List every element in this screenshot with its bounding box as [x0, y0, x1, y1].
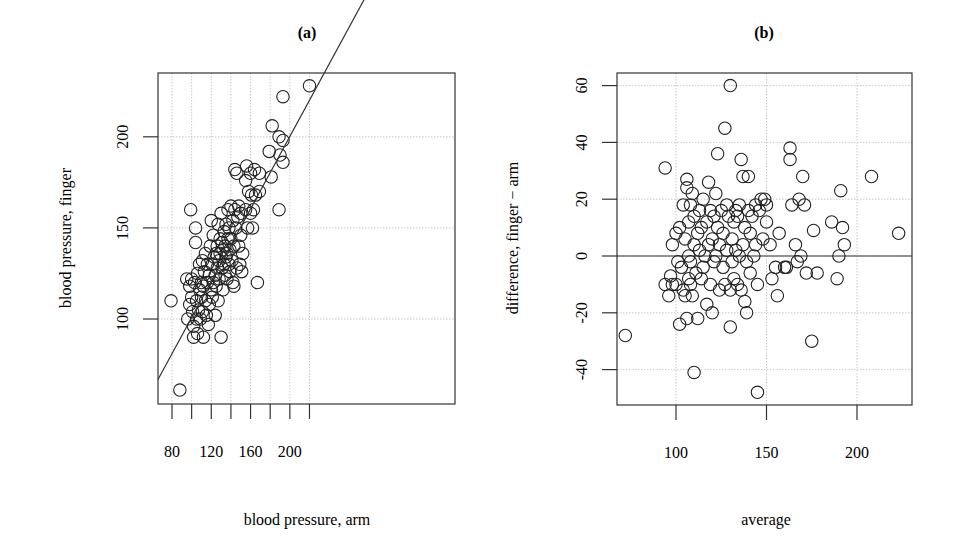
data-point: [701, 298, 713, 310]
panel-a-x-label: blood pressure, arm: [244, 511, 371, 529]
panel-b-y-axis: -40-200204060: [573, 78, 617, 381]
x-tick-label: 200: [278, 443, 302, 460]
data-point: [724, 321, 736, 333]
data-point: [742, 170, 754, 182]
y-tick-label: 0: [573, 252, 590, 260]
data-point: [686, 290, 698, 302]
data-point: [806, 335, 818, 347]
data-point: [784, 142, 796, 154]
y-tick-label: -20: [573, 302, 590, 323]
data-point: [784, 153, 796, 165]
data-point: [807, 224, 819, 236]
y-tick-label: 100: [114, 307, 131, 331]
data-point: [240, 160, 252, 172]
data-point: [209, 309, 221, 321]
panel-b: (b) 100150200 -40-200204060 average diff…: [504, 24, 912, 529]
data-point: [789, 238, 801, 250]
x-tick-label: 100: [664, 444, 688, 461]
panel-b-y-label: difference, finger − arm: [504, 161, 522, 314]
data-point: [836, 221, 848, 233]
data-point: [771, 290, 783, 302]
data-point: [702, 176, 714, 188]
data-point: [797, 170, 809, 182]
data-point: [679, 233, 691, 245]
data-point: [189, 236, 201, 248]
x-tick-label: 80: [164, 443, 180, 460]
data-point: [681, 173, 693, 185]
panel-a-grid: [158, 73, 455, 404]
panel-b-grid: [617, 73, 912, 405]
panel-a-y-label: blood pressure, finger: [57, 167, 75, 308]
y-tick-label: -40: [573, 359, 590, 380]
y-tick-label: 20: [573, 191, 590, 207]
data-point: [251, 276, 263, 288]
data-point: [892, 227, 904, 239]
data-point: [265, 171, 277, 183]
x-tick-label: 120: [199, 443, 223, 460]
panel-a-x-axis: 80120160200: [164, 404, 309, 460]
data-point: [277, 91, 289, 103]
data-point: [838, 238, 850, 250]
data-point: [688, 366, 700, 378]
data-point: [273, 203, 285, 215]
data-point: [215, 331, 227, 343]
panel-b-points: [619, 79, 905, 398]
x-tick-label: 160: [239, 443, 263, 460]
data-point: [684, 199, 696, 211]
data-point: [184, 203, 196, 215]
panel-a-y-axis: 100150200: [114, 125, 158, 331]
y-tick-label: 150: [114, 216, 131, 240]
x-tick-label: 200: [845, 444, 869, 461]
data-point: [773, 227, 785, 239]
data-point: [766, 273, 778, 285]
data-point: [739, 295, 751, 307]
data-point: [677, 199, 689, 211]
data-point: [247, 203, 259, 215]
data-point: [266, 120, 278, 132]
panel-b-title: (b): [754, 24, 774, 42]
panel-a: (a) 80120160200 100150200 blood pressure…: [57, 0, 455, 529]
data-point: [711, 148, 723, 160]
panel-a-title: (a): [298, 24, 317, 42]
data-point: [737, 170, 749, 182]
data-point: [751, 386, 763, 398]
data-point: [664, 270, 676, 282]
panel-b-plot-box: [617, 73, 912, 405]
data-point: [717, 261, 729, 273]
data-point: [704, 278, 716, 290]
data-point: [831, 273, 843, 285]
figure: (a) 80120160200 100150200 blood pressure…: [0, 0, 960, 560]
data-point: [835, 184, 847, 196]
data-point: [865, 170, 877, 182]
data-point: [735, 153, 747, 165]
y-tick-label: 40: [573, 134, 590, 150]
data-point: [174, 384, 186, 396]
data-point: [751, 278, 763, 290]
data-point: [663, 290, 675, 302]
panel-a-points: [165, 80, 316, 397]
panel-b-x-axis: 100150200: [664, 405, 869, 461]
panel-a-plot-box: [158, 73, 455, 404]
y-tick-label: 60: [573, 78, 590, 94]
data-point: [744, 267, 756, 279]
x-tick-label: 150: [755, 444, 779, 461]
data-point: [619, 329, 631, 341]
data-point: [666, 238, 678, 250]
panel-b-x-label: average: [741, 511, 791, 529]
data-point: [659, 162, 671, 174]
y-tick-label: 200: [114, 125, 131, 149]
data-point: [183, 298, 195, 310]
data-point: [710, 187, 722, 199]
data-point: [719, 122, 731, 134]
data-point: [165, 295, 177, 307]
data-point: [237, 247, 249, 259]
